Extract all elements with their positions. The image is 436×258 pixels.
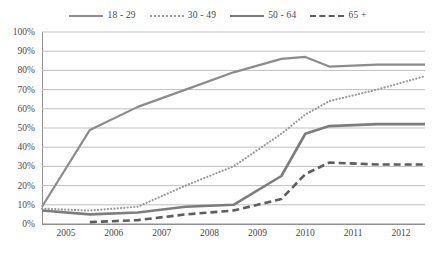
x-tick-label: 2007 [152, 228, 171, 238]
x-tick-label: 2008 [200, 228, 219, 238]
x-tick-label: 2006 [104, 228, 123, 238]
series-line-0 [42, 57, 425, 207]
series-lines [42, 32, 425, 224]
x-tick-label: 2005 [56, 228, 75, 238]
x-tick-label: 2009 [248, 228, 267, 238]
x-tick-label: 2010 [296, 228, 315, 238]
x-tick-label: 2011 [344, 228, 363, 238]
x-tick-label: 2012 [392, 228, 411, 238]
series-line-2 [42, 124, 425, 214]
line-chart: 18 - 2930 - 4950 - 6465 + 100%90%80%70%6… [0, 0, 436, 258]
series-line-1 [42, 76, 425, 210]
plot-area [42, 32, 425, 224]
